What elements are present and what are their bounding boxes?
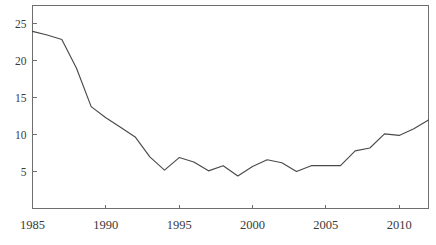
x-tick-label: 2010: [387, 218, 412, 232]
y-tick-label: 10: [15, 129, 27, 141]
x-axis-tick-labels: 198519901995200020052010: [20, 218, 412, 232]
x-tick-label: 1985: [20, 218, 45, 232]
x-tick-label: 2005: [313, 218, 338, 232]
y-tick-label: 20: [15, 55, 27, 67]
y-axis-ticks: [33, 24, 37, 172]
x-axis-ticks: [33, 205, 400, 209]
line-chart: 510152025 198519901995200020052010: [0, 0, 436, 245]
x-tick-label: 2000: [240, 218, 265, 232]
data-series-group: [33, 31, 429, 176]
series-line: [33, 31, 429, 176]
x-tick-label: 1995: [167, 218, 192, 232]
y-tick-label: 25: [15, 18, 27, 30]
x-tick-label: 1990: [93, 218, 118, 232]
chart-canvas: 510152025 198519901995200020052010: [0, 0, 436, 245]
y-axis-tick-labels: 510152025: [15, 18, 27, 178]
y-tick-label: 5: [21, 166, 27, 178]
y-tick-label: 15: [15, 92, 27, 104]
